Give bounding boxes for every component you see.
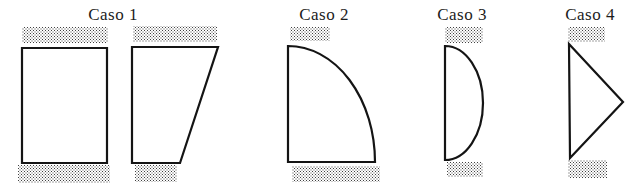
case3-half-lens-shape: [445, 46, 483, 160]
hatch-band-case2-top: [290, 27, 330, 41]
case1-trapezoid-shape: [132, 47, 218, 163]
case2-quarter-ellipse-shape: [288, 46, 375, 162]
hatch-band-case1a-top: [22, 27, 108, 43]
hatch-band-case1a-bottom: [18, 165, 110, 183]
hatch-band-case3-bottom: [447, 162, 483, 177]
hatch-band-case2-bottom: [292, 166, 380, 182]
hatch-band-case1b-bottom: [135, 165, 177, 182]
cases-diagram: [0, 0, 638, 192]
case4-triangle-shape: [569, 44, 623, 158]
figure-canvas: Caso 1 Caso 2 Caso 3 Caso 4: [0, 0, 638, 192]
hatch-band-case4-top: [568, 27, 605, 42]
hatch-band-case4-bottom: [568, 160, 607, 178]
hatch-band-case3-top: [445, 27, 483, 43]
case1-rectangle-shape: [22, 48, 107, 163]
hatch-band-case1b-top: [133, 26, 217, 42]
